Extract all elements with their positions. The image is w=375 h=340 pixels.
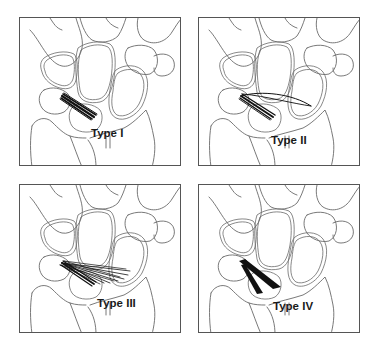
panel-type-4: Type IV: [198, 184, 360, 333]
type-label: Type IV: [273, 300, 313, 312]
type-label: Type III: [97, 297, 136, 309]
panel-type-2: Type II: [198, 17, 360, 166]
type-label: Type II: [271, 134, 307, 146]
wrist-diagram-type-3: [20, 185, 181, 333]
panel-type-3: Type III: [19, 184, 181, 333]
type-label: Type I: [91, 127, 123, 139]
panel-type-1: Type I: [19, 17, 181, 166]
wrist-diagram-type-1: [20, 18, 181, 166]
ligament-bundle: [60, 93, 97, 120]
ligament-fan: [60, 261, 130, 286]
